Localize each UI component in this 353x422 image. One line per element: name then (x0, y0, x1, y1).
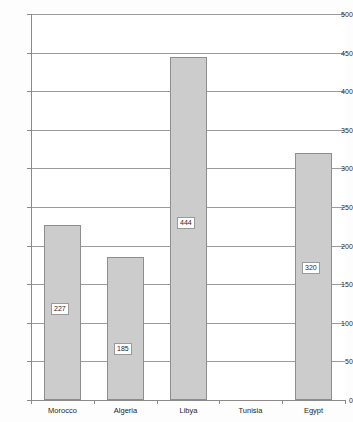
y-axis-tick-label: 450 (329, 50, 353, 57)
y-axis-line (31, 14, 32, 401)
x-axis-tick (94, 400, 95, 404)
bar (107, 257, 144, 400)
x-axis-line (31, 400, 345, 401)
x-axis-tick (282, 400, 283, 404)
x-axis-category-label: Morocco (31, 406, 94, 415)
y-axis-tick-label: 350 (329, 127, 353, 134)
bar-value-label: 227 (51, 303, 69, 315)
x-axis-tick (31, 400, 32, 404)
y-axis-tick-label: 400 (329, 88, 353, 95)
x-axis-category-label: Libya (157, 406, 220, 415)
y-axis-tick-label: 300 (329, 165, 353, 172)
y-axis-tick-label: 50 (329, 358, 353, 365)
y-axis-tick-label: 100 (329, 320, 353, 327)
y-axis-tick-label: 200 (329, 243, 353, 250)
y-axis-tick-label: 500 (329, 11, 353, 18)
y-axis-tick-label: 250 (329, 204, 353, 211)
x-axis-tick (219, 400, 220, 404)
x-axis-tick (345, 400, 346, 404)
x-axis-category-label: Algeria (94, 406, 157, 415)
y-axis-tick-label: 150 (329, 281, 353, 288)
bar (295, 153, 332, 400)
gridline (31, 53, 345, 54)
bar-value-label: 185 (114, 343, 132, 355)
bar-chart: 050100150200250300350400450500 227185444… (0, 0, 353, 422)
bar-value-label: 444 (177, 217, 195, 229)
x-axis-tick (157, 400, 158, 404)
x-axis-category-label: Tunisia (219, 406, 282, 415)
x-axis-category-label: Egypt (282, 406, 345, 415)
gridline (31, 14, 345, 15)
bar-value-label: 320 (302, 262, 320, 274)
